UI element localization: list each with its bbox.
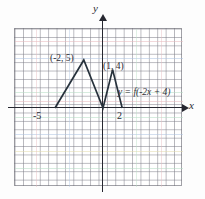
x-tick-label-right: 2	[117, 110, 122, 121]
graph-figure: y x (-2, 5) (1, 4) y = f(-2x + 4) -5 2	[0, 0, 205, 199]
equation-label: y = f(-2x + 4)	[118, 87, 170, 97]
x-axis-label: x	[189, 99, 194, 111]
vertex-label-right: (1, 4)	[103, 61, 124, 71]
function-graph-curve	[0, 0, 205, 199]
x-tick-label-left: -5	[33, 110, 41, 121]
vertex-label-left: (-2, 5)	[50, 53, 74, 63]
y-axis-label: y	[93, 2, 98, 14]
